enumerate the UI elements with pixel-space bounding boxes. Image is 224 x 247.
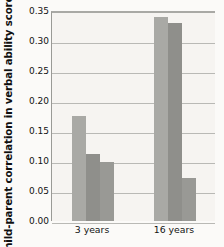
x-axis-tick-labels: 3 years16 years	[51, 224, 215, 240]
y-tick-label: 0.10	[16, 157, 49, 166]
gridline	[52, 73, 215, 74]
bar	[168, 23, 182, 221]
plot-inner	[52, 13, 215, 221]
plot-area	[51, 11, 215, 221]
y-tick-label: 0.25	[16, 67, 49, 76]
x-tick-label: 16 years	[154, 224, 194, 235]
x-tick-label: 3 years	[75, 224, 109, 235]
bar	[100, 162, 114, 221]
y-axis-tick-labels: 0.000.050.100.150.200.250.300.35	[16, 0, 49, 247]
y-tick-label: 0.35	[16, 7, 49, 16]
bar	[72, 116, 86, 221]
y-tick-label: 0.30	[16, 37, 49, 46]
y-tick-label: 0.00	[16, 217, 49, 226]
y-tick-label: 0.05	[16, 187, 49, 196]
y-tick-label: 0.20	[16, 97, 49, 106]
bar	[154, 17, 168, 221]
y-axis-title: Child-parent correlation in verbal abili…	[0, 0, 16, 247]
gridline	[52, 43, 215, 44]
y-tick-label: 0.15	[16, 127, 49, 136]
chart-screenshot: Child-parent correlation in verbal abili…	[0, 0, 224, 247]
gridline	[52, 103, 215, 104]
bar	[182, 178, 196, 221]
bar	[86, 154, 100, 221]
